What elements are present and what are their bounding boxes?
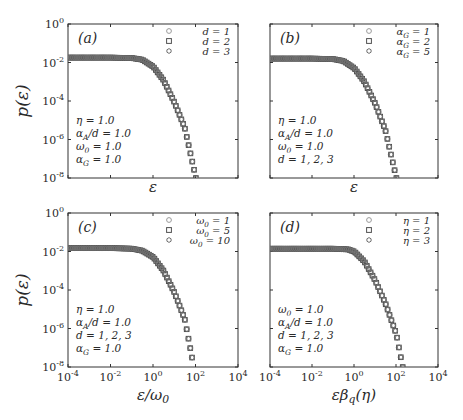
panel-b: ε(b)αG = 1αG = 2αG = 5η = 1.0αA/d = 1.0ω… <box>268 24 438 196</box>
legend-entry: ω0 = 10 <box>190 235 231 249</box>
panel-tag: (a) <box>78 30 97 46</box>
tick-label: 102 <box>186 369 205 384</box>
annotation-line: η = 1.0 <box>76 303 115 315</box>
cropped-header-text <box>0 0 463 6</box>
legend-entry: αG = 5 <box>396 46 430 60</box>
x-axis-label: ε/ω0 <box>137 386 169 406</box>
panel-d: 10-410-2100102104εβq(η)(d)η = 1η = 2η = … <box>259 213 447 406</box>
tick-label: 10-4 <box>259 369 281 384</box>
square-marker <box>167 39 172 44</box>
circle-marker <box>367 29 372 34</box>
tick-label: 100 <box>45 16 64 31</box>
hexagon-marker <box>167 49 171 54</box>
y-axis-label: p(ε) <box>12 273 32 306</box>
circle-marker <box>167 29 172 34</box>
parameter-annotation: ω0 = 1.0αA/d = 1.0d = 1, 2, 3αG = 1.0 <box>278 303 334 357</box>
hexagon-marker <box>367 238 371 243</box>
annotation-line: η = 1.0 <box>278 114 317 126</box>
legend: ω0 = 1ω0 = 5ω0 = 10 <box>167 215 231 249</box>
circle-marker <box>167 218 172 223</box>
hexagon-marker <box>167 238 171 243</box>
tick-label: 100 <box>344 369 363 384</box>
panel-tag: (d) <box>280 219 300 235</box>
panel-a: 10010-210-410-610-8p(ε)ε(a)d = 1d = 2d =… <box>12 16 238 196</box>
annotation-line: αG = 1.0 <box>278 342 324 357</box>
square-marker <box>367 39 372 44</box>
tick-label: 100 <box>45 205 64 220</box>
tick-label: 10-4 <box>57 369 79 384</box>
annotation-line: αG = 1.0 <box>76 342 122 357</box>
tick-label: 10-6 <box>42 321 64 336</box>
panel-c: 10010-210-410-610-810-410-2100102104p(ε)… <box>12 205 248 406</box>
x-axis-label: εβq(η) <box>332 386 376 406</box>
tick-label: 10-4 <box>42 93 64 108</box>
legend-entry: η = 3 <box>403 235 430 246</box>
figure: 10010-210-410-610-8p(ε)ε(a)d = 1d = 2d =… <box>0 0 463 420</box>
circle-marker <box>367 218 372 223</box>
tick-label: 10-2 <box>42 244 64 259</box>
tick-label: 10-6 <box>42 132 64 147</box>
tick-label: 102 <box>386 369 405 384</box>
tick-label: 10-4 <box>42 282 64 297</box>
tick-label: 10-2 <box>301 369 323 384</box>
panel-tag: (b) <box>280 30 300 46</box>
square-marker <box>367 228 372 233</box>
y-axis-label: p(ε) <box>12 84 32 117</box>
x-axis-label: ε <box>149 178 157 196</box>
x-axis-label: ε <box>350 178 358 196</box>
panel-tag: (c) <box>78 219 97 235</box>
legend: αG = 1αG = 2αG = 5 <box>367 26 430 60</box>
legend-entry: d = 3 <box>203 46 231 57</box>
tick-label: 104 <box>228 369 247 384</box>
tick-label: 10-2 <box>100 369 122 384</box>
parameter-annotation: η = 1.0αA/d = 1.0ω0 = 1.0αG = 1.0 <box>76 114 131 168</box>
parameter-annotation: η = 1.0αA/d = 1.0d = 1, 2, 3αG = 1.0 <box>76 303 132 357</box>
annotation-line: η = 1.0 <box>76 114 115 126</box>
hexagon-marker <box>367 49 371 54</box>
legend: d = 1d = 2d = 3 <box>167 26 230 57</box>
cropped-caption-text <box>0 412 463 420</box>
annotation-line: d = 1, 2, 3 <box>76 329 132 341</box>
tick-label: 10-2 <box>42 55 64 70</box>
tick-label: 104 <box>428 369 447 384</box>
tick-label: 100 <box>143 369 162 384</box>
square-marker <box>167 228 172 233</box>
annotation-line: αG = 1.0 <box>76 153 122 168</box>
annotation-line: d = 1, 2, 3 <box>278 329 334 341</box>
parameter-annotation: η = 1.0αA/d = 1.0ω0 = 1.0d = 1, 2, 3 <box>278 114 334 165</box>
tick-label: 10-8 <box>42 170 64 185</box>
legend: η = 1η = 2η = 3 <box>367 215 430 246</box>
annotation-line: d = 1, 2, 3 <box>278 153 334 165</box>
